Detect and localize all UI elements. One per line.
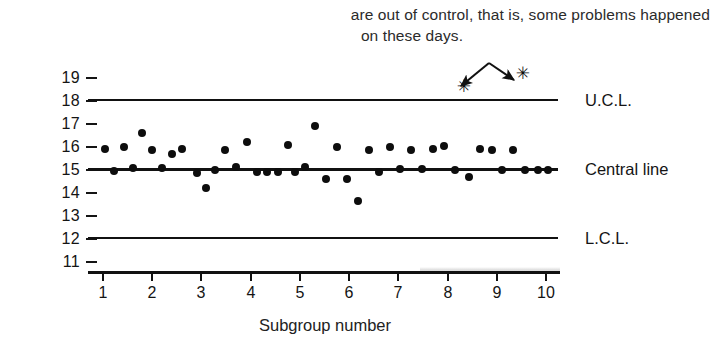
x-label-7: 7 [383,285,413,301]
data-point [451,166,459,174]
x-label-8: 8 [433,285,463,301]
data-point [375,168,383,176]
y-tick-label-18: 18 [28,93,80,109]
y-tick-dash-14 [86,192,97,194]
y-tick-label-14: 14 [28,185,80,201]
x-label-9: 9 [482,285,512,301]
data-point [284,141,292,149]
data-point [274,168,282,176]
data-point [253,168,261,176]
y-tick-label-15: 15 [28,162,80,178]
y-tick-dash-13 [86,215,97,217]
data-point [138,129,146,137]
data-point [178,145,186,153]
data-point [354,197,362,205]
data-point [488,146,496,154]
lcl-label: L.C.L. [585,230,629,247]
x-label-2: 2 [137,285,167,301]
data-point [101,145,109,153]
x-label-4: 4 [236,285,266,301]
data-point [221,146,229,154]
upper-control-limit-line [88,99,558,101]
data-point [263,168,271,176]
data-point [386,143,394,151]
data-point [396,165,404,173]
data-point [168,150,176,158]
data-point [322,175,330,183]
x-tick-1 [102,273,104,281]
data-point [333,143,341,151]
data-point [301,163,309,171]
y-tick-label-19: 19 [28,70,80,86]
data-point [407,146,415,154]
y-tick-dash-16 [86,146,97,148]
y-tick-label-11: 11 [28,254,80,270]
lower-control-limit-line [88,237,558,239]
x-label-10: 10 [531,285,561,301]
central-label: Central line [585,161,668,178]
plot-area: 19 18 17 16 15 14 13 12 11 U.C.L. Centra… [0,0,719,353]
data-point [193,169,201,177]
x-tick-5 [299,273,301,281]
data-point [476,145,484,153]
data-point [148,146,156,154]
x-axis-line [88,271,560,274]
data-point [211,166,219,174]
data-point [544,166,552,174]
y-tick-dash-17 [86,123,97,125]
y-tick-dash-11 [86,261,97,263]
x-tick-2 [151,273,153,281]
x-tick-4 [250,273,252,281]
data-point [243,138,251,146]
data-point [120,143,128,151]
x-label-1: 1 [88,285,118,301]
arrow-to-right-asterisk [489,63,514,80]
y-tick-label-17: 17 [28,116,80,132]
data-point [465,173,473,181]
data-point [343,175,351,183]
data-point [429,145,437,153]
out-of-control-asterisk: ✳ [516,68,530,78]
out-of-control-asterisk: ✳ [457,81,471,91]
y-tick-label-12: 12 [28,231,80,247]
x-tick-10 [545,273,547,281]
data-point [509,146,517,154]
x-tick-7 [397,273,399,281]
data-point [365,146,373,154]
x-tick-8 [447,273,449,281]
y-tick-label-13: 13 [28,208,80,224]
data-point [110,167,118,175]
data-point [202,184,210,192]
x-axis-title: Subgroup number [180,316,470,335]
data-point [129,164,137,172]
data-point [291,168,299,176]
x-tick-3 [200,273,202,281]
y-tick-dash-19 [86,77,97,79]
data-point [158,164,166,172]
y-tick-label-16: 16 [28,139,80,155]
control-chart-figure: are out of control, that is, some proble… [0,0,719,353]
data-point [521,166,529,174]
data-point [440,142,448,150]
x-label-6: 6 [334,285,364,301]
ucl-label: U.C.L. [585,92,632,109]
x-label-3: 3 [186,285,216,301]
data-point [498,166,506,174]
data-point [418,165,426,173]
x-tick-9 [496,273,498,281]
data-point [534,166,542,174]
data-point [232,163,240,171]
x-label-5: 5 [285,285,315,301]
data-point [311,122,319,130]
x-tick-6 [348,273,350,281]
